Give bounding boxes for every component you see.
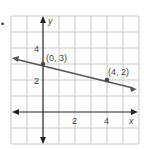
x-axis-label: x bbox=[128, 116, 134, 126]
point-label-4-2: (4, 2) bbox=[108, 67, 129, 77]
point-label-0-3: (0, 3) bbox=[46, 53, 67, 63]
y-tick-4: 4 bbox=[34, 44, 39, 54]
x-tick-4: 4 bbox=[104, 116, 109, 126]
y-axis-label: y bbox=[47, 16, 53, 26]
point-0-3 bbox=[41, 62, 45, 66]
x-tick-2: 2 bbox=[72, 116, 77, 126]
y-tick-2: 2 bbox=[34, 76, 39, 86]
point-4-2 bbox=[105, 78, 109, 82]
bullet: • bbox=[1, 19, 4, 29]
coordinate-graph: • y x 2 4 2 4 (0, 3) (4, 2) bbox=[0, 0, 144, 150]
